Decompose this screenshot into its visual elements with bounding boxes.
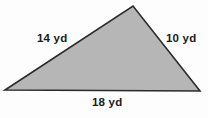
- triangle-diagram: 14 yd 10 yd 18 yd: [0, 0, 208, 118]
- triangle-polygon: [5, 6, 200, 91]
- side-label-base: 18 yd: [92, 96, 122, 109]
- side-label-right: 10 yd: [166, 32, 196, 45]
- side-label-left: 14 yd: [37, 32, 67, 45]
